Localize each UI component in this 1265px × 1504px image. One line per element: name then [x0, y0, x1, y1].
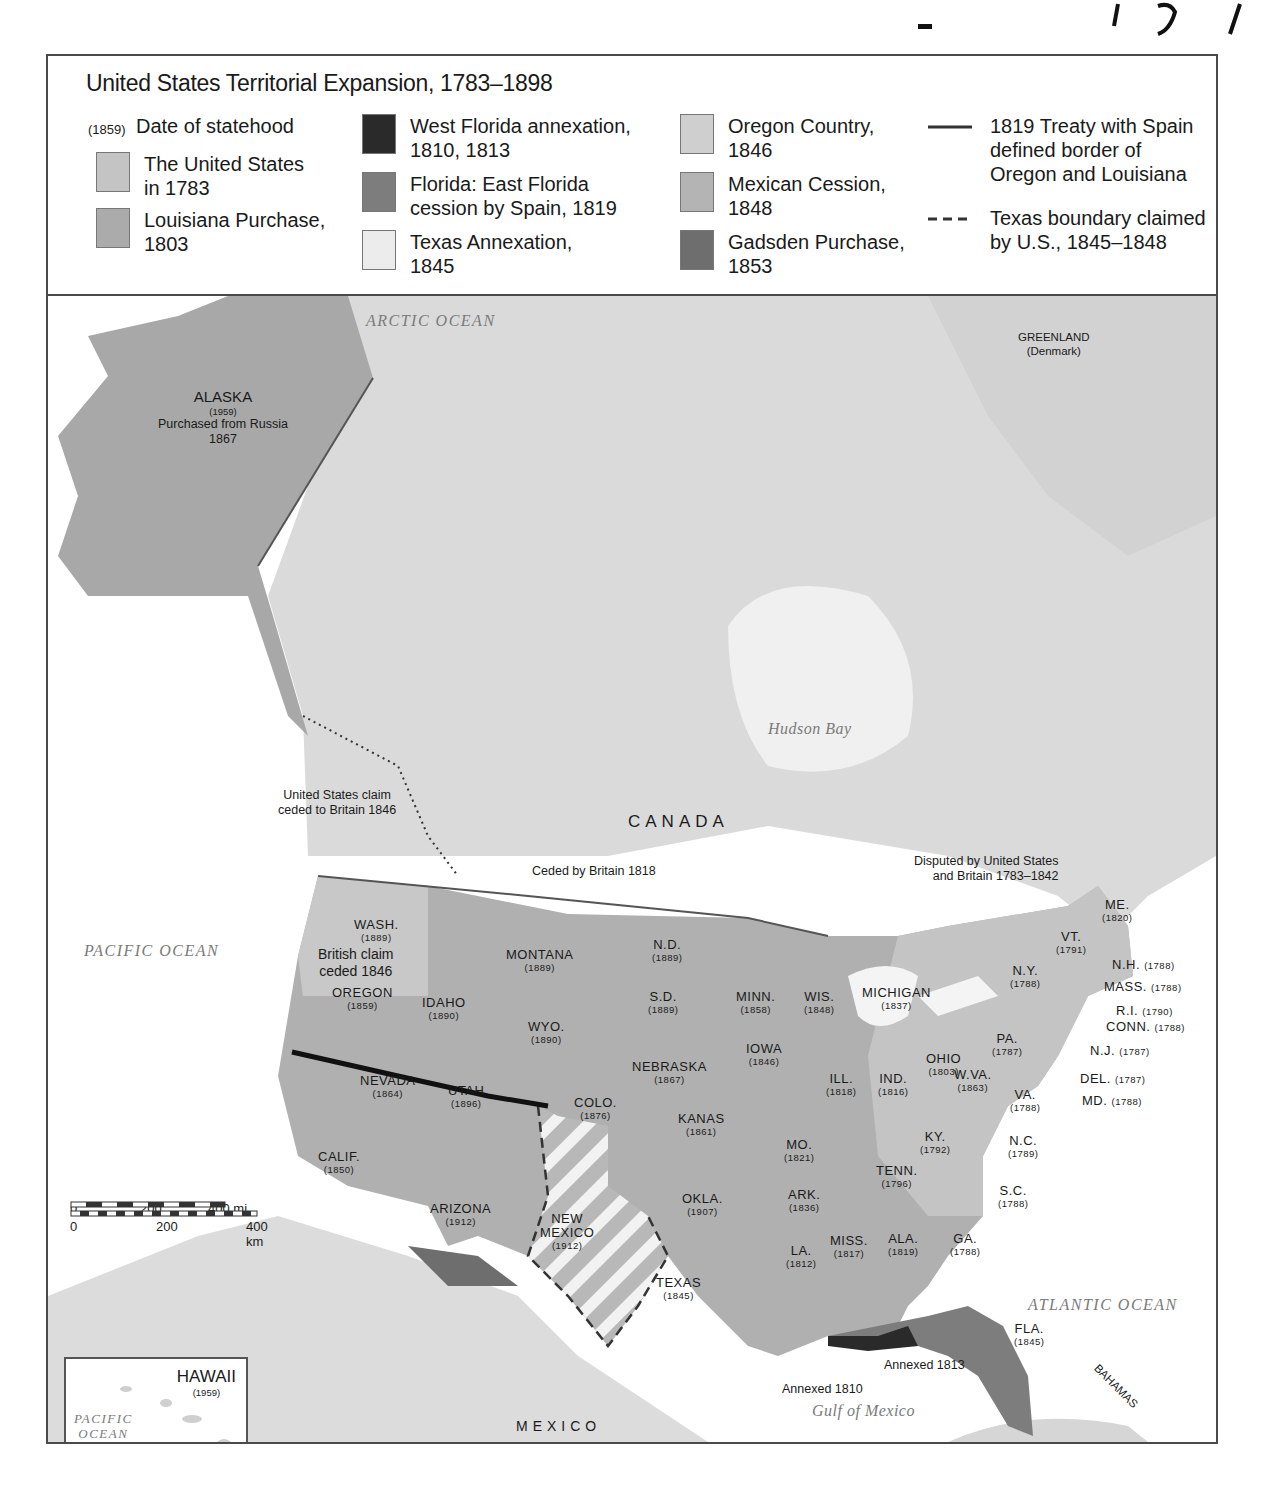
state-label: WYO.(1890) [528, 1020, 565, 1045]
legend-label: Texas boundary claimed [990, 207, 1206, 229]
state-label: S.C.(1788) [998, 1184, 1028, 1209]
state-label: MISS.(1817) [830, 1234, 868, 1259]
legend-east-florida: Florida: East Floridacession by Spain, 1… [362, 172, 617, 220]
state-label: LA.(1812) [786, 1244, 816, 1269]
state-label: COLO.(1876) [574, 1096, 617, 1121]
state-label: KY.(1792) [920, 1130, 950, 1155]
legend-texas-annexation: Texas Annexation,1845 [362, 230, 572, 278]
state-label: KANAS(1861) [678, 1112, 725, 1137]
hawaii-label: HAWAII(1959) [177, 1367, 236, 1398]
state-label: NEVADA(1864) [360, 1074, 416, 1099]
map-area: ARCTIC OCEAN PACIFIC OCEAN ATLANTIC OCEA… [48, 296, 1216, 1442]
scale-tick: 400 km [246, 1219, 280, 1249]
legend-title: United States Territorial Expansion, 178… [86, 70, 553, 97]
gulf-of-mexico-label: Gulf of Mexico [812, 1402, 915, 1420]
statehood-marker: (1859) [88, 118, 136, 142]
swatch-west-florida [362, 114, 396, 154]
state-label: IOWA(1846) [746, 1042, 782, 1067]
state-label: IND.(1816) [878, 1072, 908, 1097]
scale-tick: 0 [70, 1219, 77, 1234]
greenland-label: GREENLAND(Denmark) [1018, 330, 1090, 358]
state-callout: MD. (1788) [1082, 1094, 1142, 1109]
swatch-east-florida [362, 172, 396, 212]
alaska-label: ALASKA (1959) Purchased from Russia 1867 [158, 388, 288, 447]
state-label: W.VA.(1863) [954, 1068, 992, 1093]
legend-label: Louisiana Purchase, [144, 209, 325, 231]
state-label: N.Y.(1788) [1010, 964, 1040, 989]
pacific-ocean-label: PACIFIC OCEAN [84, 942, 219, 960]
legend-label: Oregon Country, [728, 115, 874, 137]
legend-label: cession by Spain, 1819 [410, 197, 617, 219]
state-label: WASH.(1889) [354, 918, 399, 943]
legend-statehood: (1859) Date of statehood [88, 114, 294, 142]
annexed-1813-annotation: Annexed 1813 [884, 1358, 965, 1373]
state-label: ARK.(1836) [788, 1188, 820, 1213]
state-label: N.D.(1889) [652, 938, 682, 963]
swatch-gadsden [680, 230, 714, 270]
state-label: N.C.(1789) [1008, 1134, 1038, 1159]
state-callout: CONN. (1788) [1106, 1020, 1185, 1035]
legend-west-florida: West Florida annexation,1810, 1813 [362, 114, 631, 162]
scale-tick: 200 [156, 1219, 178, 1234]
legend-label: 1853 [728, 255, 773, 277]
state-label: TEXAS(1845) [656, 1276, 701, 1301]
swatch-us-1783 [96, 152, 130, 192]
hawaii-inset: HAWAII(1959) PACIFICOCEAN HAWAIIAN ISLAN… [64, 1357, 248, 1442]
legend-treaty-line: 1819 Treaty with Spaindefined border ofO… [928, 114, 1193, 186]
state-label: MICHIGAN(1837) [862, 986, 931, 1011]
state-label: MONTANA(1889) [506, 948, 574, 973]
disputed-annotation: Disputed by United Statesand Britain 178… [914, 854, 1059, 884]
legend-label: 1810, 1813 [410, 139, 510, 161]
state-label: ILL.(1818) [826, 1072, 856, 1097]
state-label: OREGON(1859) [332, 986, 393, 1011]
state-label: S.D.(1889) [648, 990, 678, 1015]
legend-louisiana-purchase: Louisiana Purchase,1803 [96, 208, 325, 256]
state-label: UTAH(1896) [448, 1084, 484, 1109]
legend-oregon-country: Oregon Country,1846 [680, 114, 874, 162]
legend-label: Florida: East Florida [410, 173, 589, 195]
state-label: NEBRASKA(1867) [632, 1060, 707, 1085]
us-claim-annotation: United States claimceded to Britain 1846 [278, 788, 396, 818]
state-callout: N.J. (1787) [1090, 1044, 1150, 1059]
state-callout: N.H. (1788) [1112, 958, 1175, 973]
solid-line-icon [928, 125, 972, 129]
legend-label: Mexican Cession, [728, 173, 886, 195]
legend-us-1783: The United Statesin 1783 [96, 152, 304, 200]
swatch-louisiana [96, 208, 130, 248]
state-label: OKLA.(1907) [682, 1192, 723, 1217]
atlantic-ocean-label: ATLANTIC OCEAN [1028, 1296, 1178, 1314]
state-label: ARIZONA(1912) [430, 1202, 491, 1227]
state-callout: R.I. (1790) [1116, 1004, 1173, 1019]
statehood-label: Date of statehood [136, 114, 294, 138]
state-label: IDAHO(1890) [422, 996, 466, 1021]
annexed-1810-annotation: Annexed 1810 [782, 1382, 863, 1397]
swatch-mexican-cession [680, 172, 714, 212]
legend-label: Gadsden Purchase, [728, 231, 905, 253]
legend-label: 1845 [410, 255, 455, 277]
page-header-fragment [900, 0, 1265, 40]
legend-label: 1846 [728, 139, 773, 161]
state-callout: DEL. (1787) [1080, 1072, 1146, 1087]
dashed-line-icon [928, 217, 972, 221]
hawaii-ocean-label: PACIFICOCEAN [74, 1411, 133, 1441]
state-label: ME.(1820) [1102, 898, 1132, 923]
legend-label: The United States [144, 153, 304, 175]
canada-label: CANADA [628, 812, 729, 832]
state-label: CALIF.(1850) [318, 1150, 360, 1175]
legend-label: by U.S., 1845–1848 [990, 231, 1167, 253]
state-callout: MASS. (1788) [1104, 980, 1182, 995]
legend-label: in 1783 [144, 177, 210, 199]
state-label: VA.(1788) [1010, 1088, 1040, 1113]
state-label: MINN.(1858) [736, 990, 775, 1015]
scale-bar-graphic [70, 1201, 260, 1219]
state-label: NEWMEXICO(1912) [540, 1212, 594, 1251]
arctic-ocean-label: ARCTIC OCEAN [366, 312, 496, 330]
state-label: ALA.(1819) [888, 1232, 918, 1257]
swatch-oregon [680, 114, 714, 154]
scale-bar: 0 200 400 mi 0 200 400 km [70, 1201, 280, 1237]
ceded-by-britain-annotation: Ceded by Britain 1818 [532, 864, 656, 879]
legend-label: 1803 [144, 233, 189, 255]
legend-gadsden-purchase: Gadsden Purchase,1853 [680, 230, 905, 278]
state-label: TENN.(1796) [876, 1164, 918, 1189]
state-label: GA.(1788) [950, 1232, 980, 1257]
